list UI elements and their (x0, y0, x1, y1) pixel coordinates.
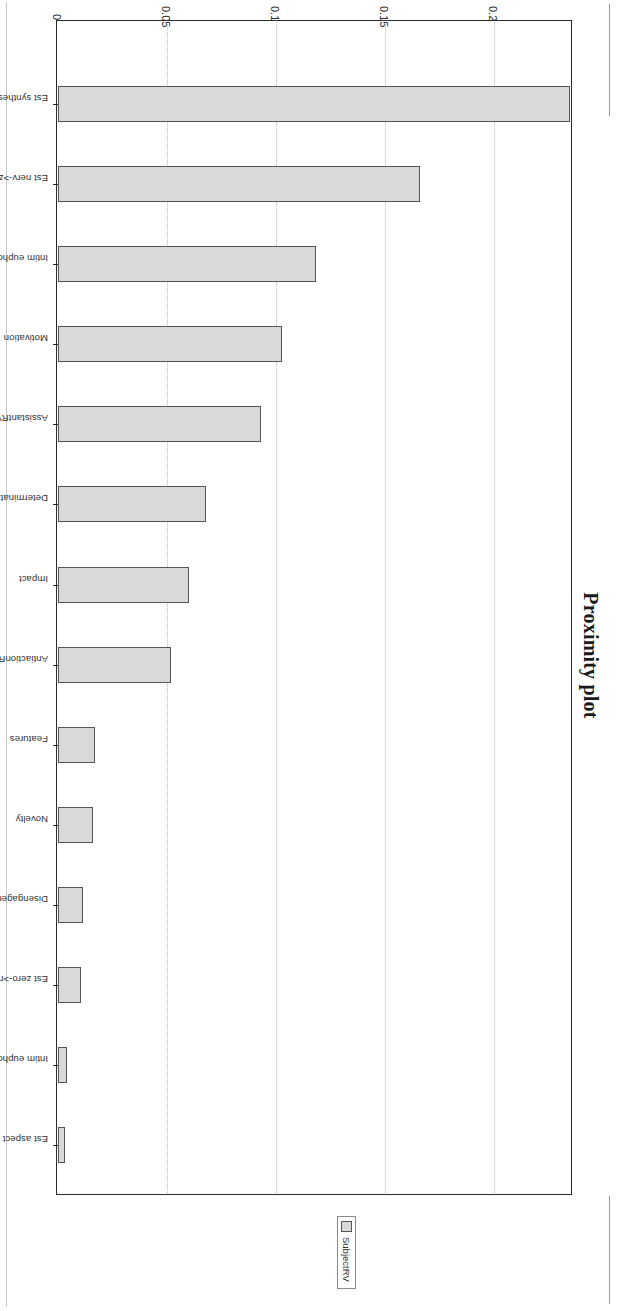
plot-area (58, 22, 570, 1193)
category-tick-mark (53, 264, 58, 265)
bar-slot (58, 705, 570, 785)
bar[interactable] (58, 567, 189, 603)
bar[interactable] (58, 326, 282, 362)
bar-slot (58, 224, 570, 304)
bar[interactable] (58, 887, 83, 923)
figure-title: Proximity plot (579, 0, 602, 1311)
category-slot: Impact (0, 544, 54, 624)
bar-slot (58, 464, 570, 544)
legend-swatch-icon (341, 1221, 352, 1232)
bar[interactable] (58, 486, 206, 522)
category-slot: Features (0, 705, 54, 785)
category-tick-label: Est synthesis (G) (0, 93, 48, 104)
category-tick-mark (53, 344, 58, 345)
bar-series-subjectrv (58, 22, 570, 1193)
category-tick-label: Disengagement (0, 894, 48, 905)
category-slot: Intim euphoric- (I) (0, 1025, 54, 1105)
bar[interactable] (58, 807, 93, 843)
bar[interactable] (58, 1047, 67, 1083)
category-tick-mark (53, 745, 58, 746)
bar-slot (58, 64, 570, 144)
category-tick-label: AntiactionRV (0, 654, 48, 665)
category-slot: Motivation (0, 304, 54, 384)
bar[interactable] (58, 246, 316, 282)
category-slot: Est aspect (H) (0, 1105, 54, 1185)
category-tick-label: Impact (19, 574, 48, 585)
bar[interactable] (58, 1127, 65, 1163)
category-tick-mark (53, 1145, 58, 1146)
category-slot: Est zero->nerv (0, 945, 54, 1025)
category-tick-label: Features (10, 734, 48, 745)
category-slot: Est nerv->zero (0, 144, 54, 224)
value-tick-label: 0.05 (160, 6, 172, 20)
bar-slot (58, 945, 570, 1025)
category-slot: Est synthesis (G) (0, 64, 54, 144)
value-tick-label: 0 (51, 6, 63, 20)
bar[interactable] (58, 727, 95, 763)
value-tick-label: 0.15 (378, 6, 390, 20)
category-slot: Intim euphoric- (L) (0, 224, 54, 304)
category-tick-mark (53, 985, 58, 986)
bar-slot (58, 785, 570, 865)
bar[interactable] (58, 647, 171, 683)
category-tick-label: Novelty (16, 814, 48, 825)
bar[interactable] (58, 967, 81, 1003)
value-tick-label: 0.2 (487, 6, 499, 20)
proximity-plot-figure: Proximity plot 00.050.10.150.2 Est synth… (0, 0, 624, 1311)
category-tick-label: Est aspect (H) (0, 1134, 48, 1145)
category-tick-label: Est zero->nerv (0, 974, 48, 985)
category-tick-label: Est nerv->zero (0, 173, 48, 184)
value-axis: 00.050.10.150.2 (58, 6, 570, 20)
legend: SubjectRV (337, 1216, 356, 1289)
category-tick-mark (53, 825, 58, 826)
bar-slot (58, 384, 570, 464)
category-slot: Novelty (0, 785, 54, 865)
legend-entry-label: SubjectRV (341, 1237, 352, 1282)
category-tick-mark (53, 1065, 58, 1066)
category-slot: Determination (0, 464, 54, 544)
value-tick-label: 0.1 (269, 6, 281, 20)
category-slot: Disengagement (0, 865, 54, 945)
category-tick-label: Intim euphoric- (I) (0, 1054, 48, 1065)
bar-slot (58, 1105, 570, 1185)
category-tick-mark (53, 424, 58, 425)
bar-slot (58, 865, 570, 945)
bar[interactable] (58, 86, 570, 122)
category-tick-mark (53, 665, 58, 666)
bar-slot (58, 144, 570, 224)
category-tick-mark (53, 184, 58, 185)
category-tick-label: Determination (0, 493, 48, 504)
category-axis: Est synthesis (G)Est nerv->zeroIntim eup… (0, 22, 54, 1193)
category-tick-label: Intim euphoric- (L) (0, 253, 48, 264)
bar-slot (58, 1025, 570, 1105)
category-slot: AntiactionRV (0, 625, 54, 705)
bar-slot (58, 304, 570, 384)
category-slot: AssistantRV (0, 384, 54, 464)
category-tick-label: AssistantRV (0, 413, 48, 424)
category-tick-mark (53, 905, 58, 906)
category-tick-label: Motivation (4, 333, 48, 344)
bar-slot (58, 625, 570, 705)
category-tick-mark (53, 504, 58, 505)
bar[interactable] (58, 166, 420, 202)
bar[interactable] (58, 406, 261, 442)
bar-slot (58, 544, 570, 624)
category-tick-mark (53, 104, 58, 105)
category-tick-mark (53, 585, 58, 586)
